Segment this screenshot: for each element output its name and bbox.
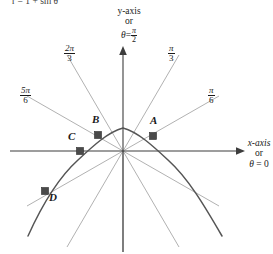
x-axis-label-line1: x-axis [243,138,273,148]
ray-label-pi-3-fraction: π 3 [168,44,175,64]
polar-ray-330deg [123,151,219,206]
x-axis-theta-value: = 0 [256,159,268,169]
ray-label-5pi-6-fraction: 5π 6 [20,86,31,106]
x-axis-label-line2: or [243,148,273,158]
y-axis-label-line3: θ=π2 [121,27,137,45]
point-A-marker [150,133,157,140]
ray-label-pi-6: π 6 [208,86,215,106]
polar-graph-figure: r = 1 + sin θ [0,0,273,254]
point-D-label: D [49,192,57,204]
x-axis-label-line3: θ = 0 [243,159,273,169]
ray-label-pi-6-fraction: π 6 [208,86,215,106]
polar-ray-240deg [67,151,123,247]
point-D-marker [42,188,49,195]
point-A-label: A [150,115,157,127]
ray-label-pi-3: π 3 [168,44,175,64]
ray-label-2pi-3-fraction: 2π 3 [64,44,75,64]
polar-ray-300deg [123,151,179,247]
ray-label-5pi-6: 5π 6 [20,86,31,106]
ray-label-pi-6-denominator: 6 [208,96,215,105]
y-axis-label-line1: y-axis [98,6,160,16]
ray-label-2pi-3: 2π 3 [64,44,75,64]
point-B-label: B [92,114,99,126]
y-axis-arrowhead [119,46,127,55]
point-B-marker [95,132,102,139]
ray-label-pi-3-denominator: 3 [168,54,175,63]
x-axis-label: x-axis or θ = 0 [243,138,273,169]
ray-label-2pi-3-denominator: 3 [64,54,75,63]
y-axis-fraction: π2 [131,27,137,45]
y-axis-label: y-axis or θ=π2 [98,6,160,44]
ray-label-5pi-6-denominator: 6 [20,96,31,105]
x-axis-theta-symbol: θ [249,159,254,169]
y-axis-label-line2: or [98,16,160,26]
cardioid-curve [28,128,222,236]
polar-ray-30deg [123,96,219,151]
point-C-label: C [68,131,75,143]
y-axis-fraction-denominator: 2 [131,36,137,44]
polar-ray-210deg [27,151,123,206]
point-C-marker [77,148,84,155]
